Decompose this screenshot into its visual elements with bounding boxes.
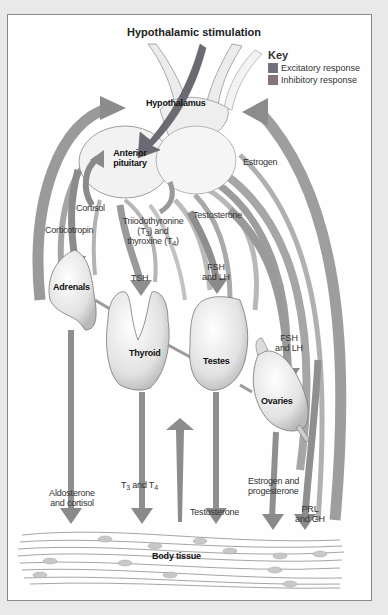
label-testes: Testes (203, 356, 230, 366)
excitatory-swatch (268, 63, 278, 73)
label-fsh-lh-ovaries: FSH and LH (273, 333, 305, 353)
label-ovaries: Ovaries (261, 396, 293, 406)
arrowhead-right-hypothalamus (242, 98, 268, 126)
label-testosterone-lower: Testosterone (190, 507, 239, 517)
label-anterior-pituitary: Anterior pituitary (108, 148, 152, 168)
label-corticotropin: Corticotropin (45, 225, 93, 235)
label-cortisol: Cortisol (76, 203, 105, 213)
legend-item-excitatory: Excitatory response (268, 63, 360, 73)
legend-title: Key (268, 49, 360, 61)
label-aldosterone-cortisol: Aldosterone and cortisol (42, 488, 102, 508)
label-body-tissue: Body tissue (152, 551, 201, 561)
label-thyroid: Thyroid (129, 348, 161, 358)
label-testosterone-upper: Testosterone (193, 210, 242, 220)
inhibitory-swatch (268, 75, 278, 85)
legend-item-inhibitory: Inhibitory response (268, 75, 360, 85)
label-t3-t4-thyroxine: Triiodothyronine (T3) and thyroxine (T4) (118, 216, 188, 246)
arrowhead-left-hypothalamus (100, 96, 126, 120)
label-t3-and-t4: T3 and T4 (121, 480, 158, 490)
label-adrenals: Adrenals (53, 282, 90, 292)
endocrine-diagram (0, 0, 388, 615)
legend: Key Excitatory response Inhibitory respo… (268, 49, 360, 85)
testes-gland (190, 297, 248, 391)
label-hypothalamus: Hypothalamus (146, 98, 206, 108)
thyroid-gland (107, 292, 170, 390)
ovaries-gland (253, 338, 310, 442)
label-estrogen-progesterone: Estrogen and progesterone (248, 476, 299, 496)
diagram-title: Hypothalamic stimulation (0, 26, 388, 38)
label-tsh: TSH (131, 273, 148, 283)
label-fsh-lh-testes: FSH and LH (200, 262, 232, 282)
label-prl-gh: PRL and GH (293, 504, 327, 524)
label-estrogen: Estrogen (243, 157, 277, 167)
